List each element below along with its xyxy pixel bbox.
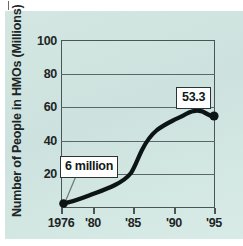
chart-plot-svg [0,0,243,246]
leader-line-start [66,176,76,200]
chart-figure: Number of People in HMOs (Millions) 100 … [0,0,243,246]
data-point-1976 [59,199,68,208]
annotation-53-3: 53.3 [176,87,211,109]
data-point-1995 [209,111,218,120]
annotation-6-million: 6 million [60,156,118,178]
